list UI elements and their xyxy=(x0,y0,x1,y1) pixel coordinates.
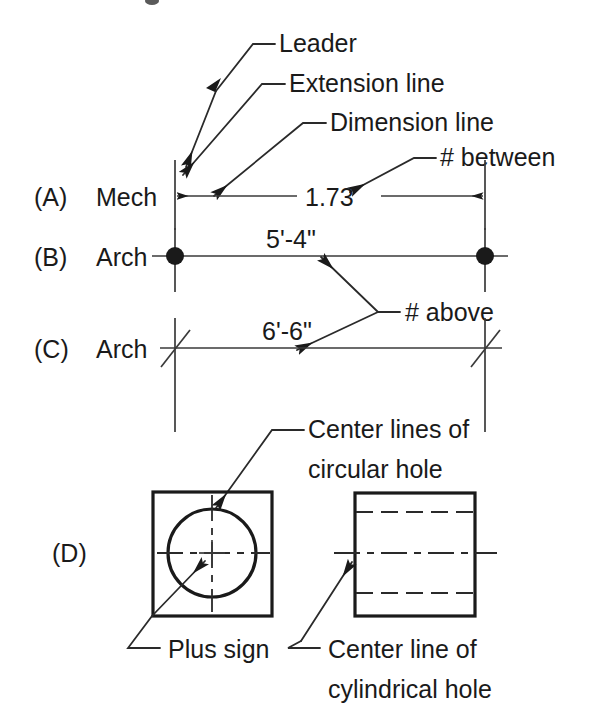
callout-label-leader: Leader xyxy=(279,29,357,57)
callout-label-extension-line: Extension line xyxy=(289,69,445,97)
callout-label-plus-sign: Plus sign xyxy=(168,635,269,663)
callout-label-center-line-cylindrical-1: Center line of xyxy=(328,635,477,663)
row-c-dimension-value: 6'-6" xyxy=(262,317,312,345)
leader-line-center-lines-circular-callout xyxy=(216,430,304,508)
row-d-tag: (D) xyxy=(52,539,87,567)
row-b-style-label: Arch xyxy=(96,243,147,271)
row-b-dot-terminator-right xyxy=(476,247,494,265)
cropped-glyph-remnant xyxy=(145,0,159,5)
row-a-style-label: Mech xyxy=(96,183,157,211)
row-a-mech: (A) Mech 1.73 xyxy=(34,160,485,230)
row-b-arch-dots: (B) Arch 5'-4" xyxy=(34,225,508,292)
figure-canvas: Leader Extension line Dimension line # b… xyxy=(0,0,603,715)
row-c-style-label: Arch xyxy=(96,335,147,363)
callout-label-center-line-cylindrical-2: cylindrical hole xyxy=(328,675,492,703)
dimensioning-styles-diagram: Leader Extension line Dimension line # b… xyxy=(0,0,603,715)
callout-label-dimension-line: Dimension line xyxy=(330,108,494,136)
row-a-dimension-value: 1.73 xyxy=(305,183,354,211)
callout-label-number-above: # above xyxy=(405,298,494,326)
row-b-tag: (B) xyxy=(34,243,67,271)
leader-line-extension-line-callout xyxy=(183,84,285,175)
callout-label-center-lines-circular-2: circular hole xyxy=(308,455,443,483)
row-a-tag: (A) xyxy=(34,183,67,211)
leader-line-leader-callout xyxy=(186,44,275,167)
callout-label-center-lines-circular-1: Center lines of xyxy=(308,415,469,443)
leader-line-number-above-callout xyxy=(297,257,400,350)
callout-label-number-between: # between xyxy=(440,143,555,171)
shape-rectangle-cylindrical-hole xyxy=(334,493,497,616)
row-b-dot-terminator-left xyxy=(166,247,184,265)
row-c-tag: (C) xyxy=(34,335,69,363)
row-b-dimension-value: 5'-4" xyxy=(266,225,316,253)
leader-line-number-between-callout xyxy=(350,158,436,192)
